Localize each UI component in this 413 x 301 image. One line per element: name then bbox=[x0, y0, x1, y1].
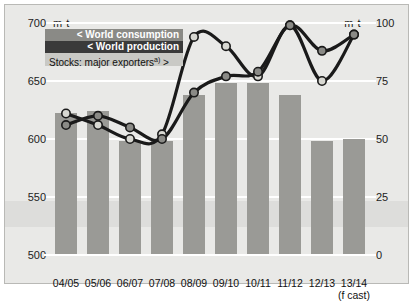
axis-baseline bbox=[44, 254, 376, 256]
chart-card: m t m t 5000550256005065075700100 04/050… bbox=[4, 4, 409, 284]
legend-item-production: < World production bbox=[45, 41, 183, 53]
marker-world-consumption-12-13 bbox=[318, 77, 326, 85]
legend-stocks-footnote: a) bbox=[154, 56, 160, 63]
x-axis-label-13-14: 13/14 bbox=[332, 277, 376, 289]
marker-world-consumption-08-09 bbox=[190, 33, 198, 41]
right-axis-tick-label: 75 bbox=[376, 76, 413, 86]
right-axis-tick-label: 50 bbox=[376, 134, 413, 144]
left-axis-tick-label: 700 bbox=[8, 18, 46, 28]
right-axis-tick-label: 25 bbox=[376, 192, 413, 202]
marker-world-production-13-14 bbox=[350, 30, 358, 38]
marker-world-production-10-11 bbox=[254, 68, 262, 76]
left-axis-tick-label: 600 bbox=[8, 134, 46, 144]
marker-world-production-05-06 bbox=[94, 112, 102, 120]
right-axis-tick-label: 0 bbox=[376, 250, 413, 260]
marker-world-consumption-09-10 bbox=[222, 42, 230, 50]
legend-stocks-label: Stocks: major exporters bbox=[49, 57, 154, 68]
marker-world-production-08-09 bbox=[190, 88, 198, 96]
marker-world-production-12-13 bbox=[318, 47, 326, 55]
marker-world-production-11-12 bbox=[286, 21, 294, 29]
legend-item-stocks: Stocks: major exportersa) > bbox=[45, 53, 183, 66]
legend-stocks-arrow: > bbox=[163, 57, 169, 68]
marker-world-production-04-05 bbox=[62, 121, 70, 129]
right-axis-tick-label: 100 bbox=[376, 18, 413, 28]
marker-world-consumption-05-06 bbox=[94, 121, 102, 129]
left-axis-tick-label: 500 bbox=[8, 250, 46, 260]
marker-world-consumption-04-05 bbox=[62, 109, 70, 117]
left-axis-tick-label: 550 bbox=[8, 192, 46, 202]
chart-legend: < World consumption < World production S… bbox=[45, 29, 183, 66]
marker-world-production-07-08 bbox=[158, 135, 166, 143]
marker-world-production-09-10 bbox=[222, 72, 230, 80]
legend-item-consumption: < World consumption bbox=[45, 29, 183, 41]
marker-world-production-06-07 bbox=[126, 123, 134, 131]
x-axis-sublabel-13-14: (f cast) bbox=[332, 289, 376, 301]
left-axis-tick-label: 650 bbox=[8, 76, 46, 86]
marker-world-consumption-06-07 bbox=[126, 135, 134, 143]
